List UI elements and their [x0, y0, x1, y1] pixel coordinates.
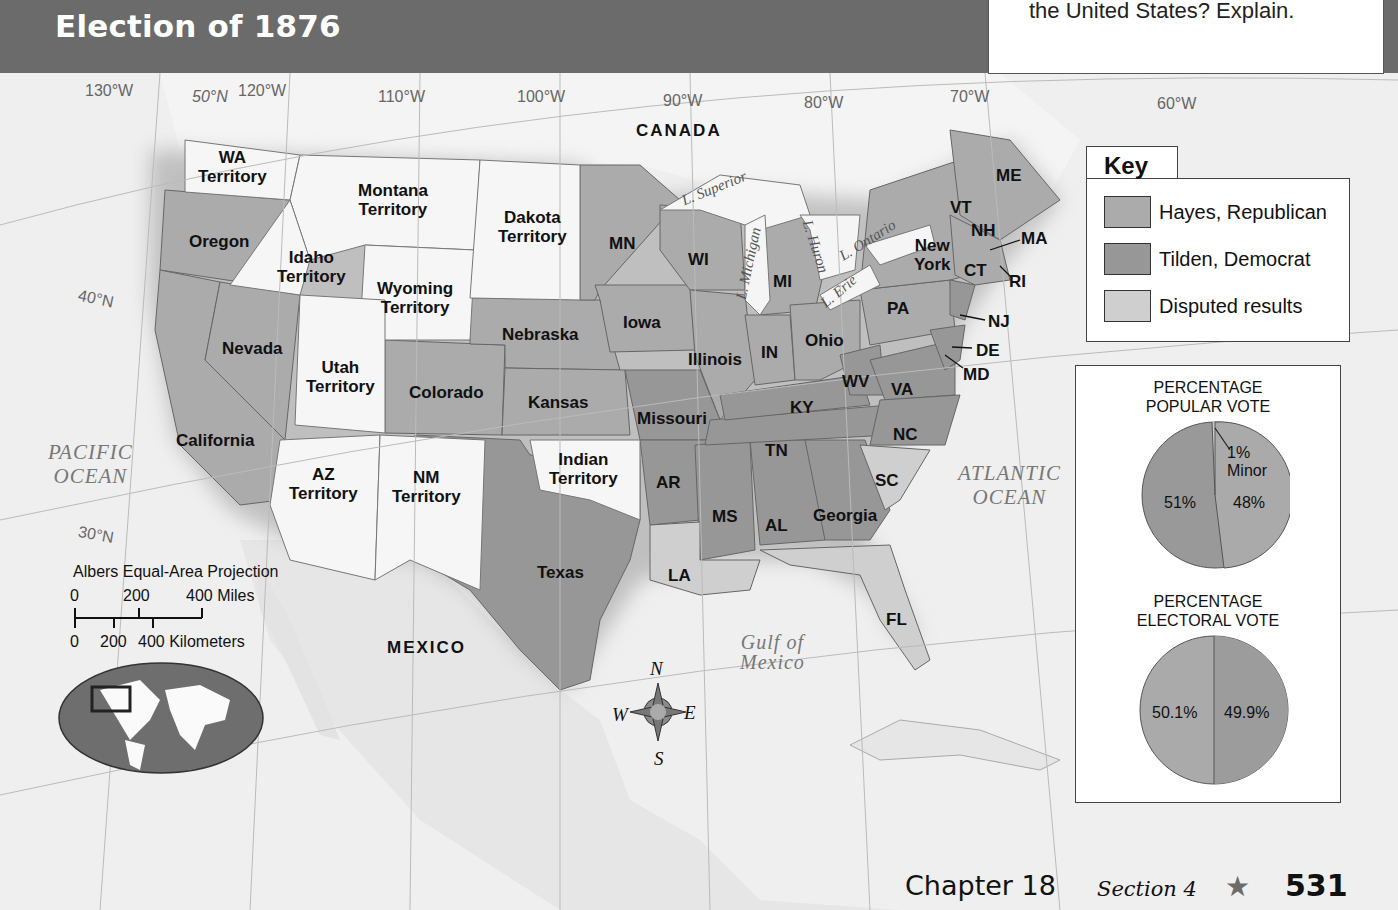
state-indian-territory: IndianTerritory	[549, 450, 618, 488]
state-ohio: Ohio	[805, 331, 844, 350]
popular-vote-title: PERCENTAGEPOPULAR VOTE	[1076, 378, 1340, 416]
state-wi: WI	[688, 250, 709, 269]
state-iowa: Iowa	[623, 313, 661, 332]
state-vt: VT	[950, 198, 972, 217]
section-label: Section 4	[1097, 877, 1197, 901]
state-california: California	[176, 431, 254, 450]
label-canada: CANADA	[636, 121, 722, 141]
question-box: the United States? Explain.	[988, 0, 1384, 74]
vote-charts-panel: PERCENTAGEPOPULAR VOTE 1% Minor 51% 48% …	[1075, 365, 1341, 803]
electoral-hayes-pct: 50.1%	[1152, 704, 1197, 722]
electoral-tilden-pct: 49.9%	[1224, 704, 1269, 722]
chapter-label: Chapter 18	[905, 870, 1056, 901]
state-sc: SC	[875, 471, 899, 490]
state-va: VA	[891, 380, 913, 399]
key-title: Key	[1104, 152, 1148, 180]
scale-miles-200: 200	[123, 587, 150, 605]
state-nevada: Nevada	[222, 339, 282, 358]
compass-south: S	[654, 748, 664, 770]
popular-vote-pie	[1140, 420, 1290, 570]
swatch-disputed	[1104, 290, 1151, 322]
lat-label-50n: 50°N	[192, 88, 228, 106]
state-nebraska: Nebraska	[502, 325, 579, 344]
state-me: ME	[996, 166, 1022, 185]
state-mi: MI	[773, 272, 792, 291]
label-atlantic-ocean: ATLANTICOCEAN	[958, 461, 1061, 509]
state-georgia: Georgia	[813, 506, 877, 525]
state-texas: Texas	[537, 563, 584, 582]
state-idaho-territory: IdahoTerritory	[277, 248, 346, 286]
state-oregon: Oregon	[189, 232, 249, 251]
projection-label: Albers Equal-Area Projection	[73, 563, 278, 581]
state-mn: MN	[609, 234, 635, 253]
state-de: DE	[976, 341, 1000, 360]
state-wyoming-territory: WyomingTerritory	[377, 279, 453, 317]
compass-east: E	[684, 702, 696, 724]
state-utah-territory: UtahTerritory	[306, 358, 375, 396]
state-new-york: NewYork	[914, 236, 951, 274]
popular-hayes-pct: 48%	[1233, 494, 1265, 512]
textbook-page: Election of 1876 the United States? Expl…	[0, 0, 1398, 910]
scale-km-200: 200	[100, 633, 127, 651]
state-missouri: Missouri	[637, 409, 707, 428]
state-nj: NJ	[988, 312, 1010, 331]
popular-minor-label: Minor	[1227, 462, 1267, 480]
state-kansas: Kansas	[528, 393, 588, 412]
scale-miles-400: 400 Miles	[186, 587, 254, 605]
state-ri: RI	[1009, 272, 1026, 291]
popular-tilden-pct: 51%	[1164, 494, 1196, 512]
lon-label-120w: 120°W	[238, 82, 286, 100]
state-pa: PA	[887, 299, 909, 318]
question-text: the United States? Explain.	[1029, 0, 1294, 24]
state-illinois: Illinois	[688, 350, 742, 369]
state-ms: MS	[712, 507, 738, 526]
state-ar: AR	[656, 473, 681, 492]
state-la: LA	[668, 566, 691, 585]
state-wv: WV	[842, 372, 869, 391]
lon-label-70w: 70°W	[950, 88, 989, 106]
state-nc: NC	[893, 425, 918, 444]
label-mexico: MEXICO	[387, 638, 466, 658]
lon-label-60w: 60°W	[1157, 95, 1196, 113]
locator-globe	[59, 663, 263, 773]
swatch-democrat	[1104, 243, 1151, 275]
state-ky: KY	[790, 398, 814, 417]
lon-label-130w: 130°W	[85, 82, 133, 100]
state-in: IN	[761, 343, 778, 362]
state-md: MD	[963, 365, 989, 384]
compass-north: N	[650, 658, 663, 680]
page-number: 531	[1285, 868, 1348, 903]
key-item-disputed: Disputed results	[1104, 290, 1302, 322]
label-pacific-ocean: PACIFICOCEAN	[48, 440, 133, 488]
star-icon: ★	[1225, 870, 1250, 903]
key-item-hayes: Hayes, Republican	[1104, 196, 1327, 228]
scale-km-400: 400 Kilometers	[138, 633, 245, 651]
state-montana-territory: MontanaTerritory	[358, 181, 428, 219]
compass-west: W	[612, 704, 628, 726]
state-fl: FL	[886, 610, 907, 629]
label-gulf-of-mexico: Gulf ofMexico	[740, 632, 805, 672]
state-nh: NH	[971, 221, 996, 240]
key-item-tilden: Tilden, Democrat	[1104, 243, 1311, 275]
state-tn: TN	[765, 441, 788, 460]
lon-label-90w: 90°W	[663, 92, 702, 110]
map-title: Election of 1876	[55, 8, 341, 44]
state-dakota-territory: DakotaTerritory	[498, 208, 567, 246]
electoral-vote-title: PERCENTAGEELECTORAL VOTE	[1076, 592, 1340, 630]
state-nm-territory: NMTerritory	[392, 468, 461, 506]
popular-minor-pct: 1%	[1227, 444, 1250, 462]
scale-km-0: 0	[70, 633, 79, 651]
state-wa-territory: WATerritory	[198, 148, 267, 186]
lon-label-100w: 100°W	[517, 88, 565, 106]
state-colorado: Colorado	[409, 383, 484, 402]
state-ma: MA	[1021, 229, 1047, 248]
state-az-territory: AZTerritory	[289, 465, 358, 503]
scale-miles-0: 0	[70, 587, 79, 605]
lon-label-110w: 110°W	[378, 88, 425, 106]
state-ct: CT	[964, 261, 987, 280]
swatch-republican	[1104, 196, 1151, 228]
lon-label-80w: 80°W	[804, 94, 843, 112]
state-al: AL	[765, 516, 788, 535]
